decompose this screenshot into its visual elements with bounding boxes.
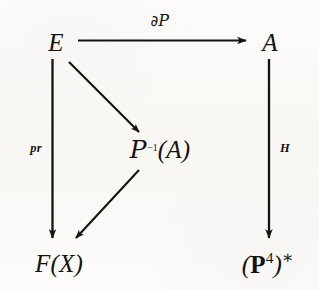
superscript-minus-one: −1: [147, 142, 158, 153]
node-A: A: [262, 30, 277, 55]
edge-label-pr: pr: [30, 142, 42, 155]
node-f-of-x-label: F(X): [35, 250, 83, 277]
arrow-e-to-pinva: [69, 62, 139, 132]
node-E: E: [48, 30, 63, 55]
p4-bold-p: P: [250, 251, 265, 278]
arrow-pinva-to-fx: [76, 170, 139, 238]
p4-superscript-four: 4: [266, 249, 274, 266]
node-E-label: E: [48, 29, 63, 56]
edge-label-pr-text: pr: [30, 141, 42, 155]
node-p-inverse-a: P−1(A): [130, 137, 191, 162]
edge-label-partial-p: ∂P: [150, 13, 169, 29]
script-p-glyph: P: [130, 135, 148, 164]
node-f-of-x: F(X): [35, 251, 83, 276]
node-p-inverse-a-argument: (A): [158, 136, 191, 163]
edge-label-h: H: [280, 142, 290, 155]
partial-symbol: ∂: [150, 12, 158, 30]
script-p-glyph-top: P: [158, 11, 169, 30]
p4-dual-star: ∗: [282, 247, 294, 267]
node-p4-dual: (P4)∗: [242, 249, 294, 276]
edge-label-h-text: H: [280, 141, 290, 155]
p4-open-paren: (: [242, 251, 251, 278]
node-A-label: A: [262, 29, 277, 56]
commutative-diagram: E A P−1(A) F(X) (P4)∗ ∂P pr H: [0, 0, 319, 290]
